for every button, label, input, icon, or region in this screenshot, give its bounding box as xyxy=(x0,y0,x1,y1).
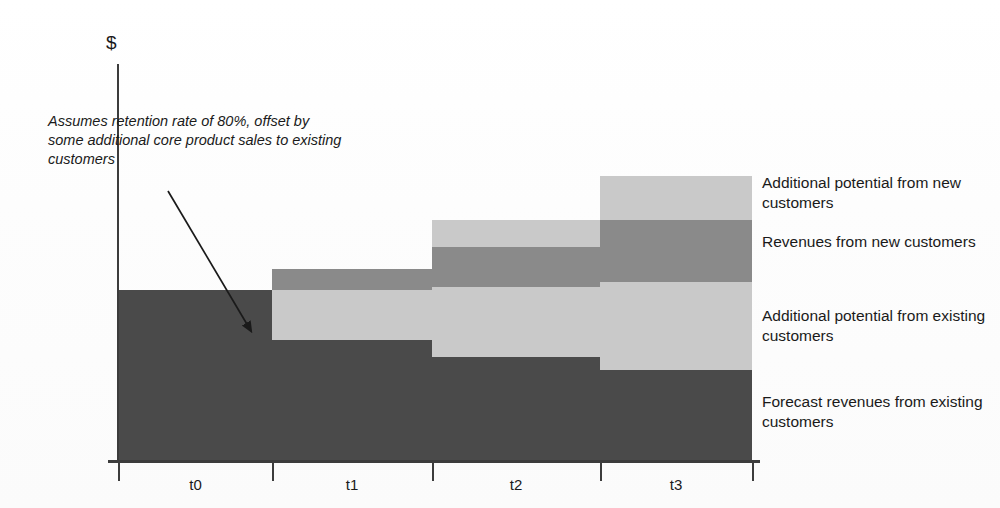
bar-segment-t2-additional_potential_existing xyxy=(432,287,600,357)
legend-label-forecast_revenues_existing: Forecast revenues from existing customer… xyxy=(762,392,1000,432)
x-axis-label-t3: t3 xyxy=(646,476,706,493)
bar-segment-t2-forecast_revenues_existing xyxy=(432,357,600,462)
bar-segment-t3-additional_potential_new xyxy=(600,176,752,220)
x-axis-label-t2: t2 xyxy=(486,476,546,493)
bar-segment-t2-revenues_new xyxy=(432,247,600,287)
bar-segment-t1-forecast_revenues_existing xyxy=(272,340,432,462)
legend-label-additional_potential_new: Additional potential from new customers xyxy=(762,173,1000,213)
x-axis-tick-t2 xyxy=(600,463,602,481)
bar-segment-t1-additional_potential_existing xyxy=(272,290,432,340)
x-axis-tick-t0 xyxy=(272,463,274,481)
bar-segment-t3-revenues_new xyxy=(600,220,752,282)
legend-label-revenues_new: Revenues from new customers xyxy=(762,232,1000,252)
bar-segment-t3-forecast_revenues_existing xyxy=(600,370,752,462)
x-axis-tick-t1 xyxy=(432,463,434,481)
legend-label-additional_potential_existing: Additional potential from existing custo… xyxy=(762,306,1000,346)
bar-segment-t0-forecast_revenues_existing xyxy=(119,290,272,462)
x-axis-label-t1: t1 xyxy=(322,476,382,493)
x-axis-label-t0: t0 xyxy=(166,476,226,493)
y-axis-unit-label: $ xyxy=(106,32,117,54)
annotation-text: Assumes retention rate of 80%, offset by… xyxy=(48,112,348,169)
bar-segment-t2-additional_potential_new xyxy=(432,220,600,247)
bar-segment-t1-revenues_new xyxy=(272,269,432,290)
x-axis-tick-origin xyxy=(118,463,120,481)
bar-segment-t3-additional_potential_existing xyxy=(600,282,752,370)
x-axis-line xyxy=(108,460,760,463)
x-axis-tick-t3 xyxy=(752,463,754,481)
stacked-bar-chart-figure: $ t0t1t2t3 Assumes retention rate of 80%… xyxy=(0,0,1000,508)
